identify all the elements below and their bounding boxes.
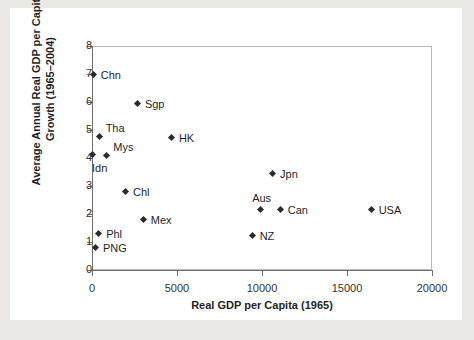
x-tick-mark bbox=[262, 271, 263, 276]
data-point-label: Sgp bbox=[145, 99, 165, 110]
x-tick-label: 10000 bbox=[232, 278, 292, 296]
x-tick-label-text: 5000 bbox=[165, 282, 189, 294]
x-tick-mark bbox=[347, 271, 348, 276]
data-point-label: Chn bbox=[101, 70, 121, 81]
y-tick-label-text: 2 bbox=[70, 208, 92, 219]
data-point-label: Can bbox=[288, 205, 308, 216]
y-tick-label-text: 3 bbox=[70, 180, 92, 191]
data-point-label: HK bbox=[179, 133, 194, 144]
y-axis-title: Average Annual Real GDP per Capita Growt… bbox=[29, 0, 59, 194]
y-tick-label-text: 1 bbox=[70, 236, 92, 247]
data-point-label: PNG bbox=[103, 243, 127, 254]
y-tick-label: 7 bbox=[58, 68, 92, 79]
x-tick-label: 15000 bbox=[317, 278, 377, 296]
data-point-label: Phl bbox=[106, 229, 122, 240]
x-tick-label: 0 bbox=[62, 278, 122, 296]
y-tick-label-text: 8 bbox=[70, 40, 92, 51]
x-tick-label: 5000 bbox=[147, 278, 207, 296]
y-tick-label: 4 bbox=[58, 152, 92, 163]
y-tick-label: 0 bbox=[58, 264, 92, 275]
y-tick-label: 5 bbox=[58, 124, 92, 135]
y-tick-label-text: 0 bbox=[70, 264, 92, 275]
data-point-label: Mex bbox=[151, 215, 172, 226]
x-tick-label-text: 20000 bbox=[417, 282, 448, 294]
data-point-label: Chl bbox=[133, 187, 150, 198]
y-tick-label: 1 bbox=[58, 236, 92, 247]
y-tick-label: 2 bbox=[58, 208, 92, 219]
x-tick-mark bbox=[92, 271, 93, 276]
y-tick-label: 8 bbox=[58, 40, 92, 51]
y-tick-label: 3 bbox=[58, 180, 92, 191]
x-tick-mark bbox=[432, 271, 433, 276]
data-point-label: USA bbox=[379, 205, 402, 216]
x-tick-mark bbox=[177, 271, 178, 276]
x-tick-label-text: 10000 bbox=[247, 282, 278, 294]
data-point-label: Jpn bbox=[280, 169, 298, 180]
scatter-chart: 012345678 05000100001500020000 ChnSgpTha… bbox=[10, 8, 462, 320]
data-point-label: NZ bbox=[260, 231, 275, 242]
data-point-label: Tha bbox=[106, 123, 125, 134]
data-point-label: Mys bbox=[113, 142, 133, 153]
figure-card: 012345678 05000100001500020000 ChnSgpTha… bbox=[10, 8, 462, 320]
x-tick-label-text: 0 bbox=[89, 282, 95, 294]
y-tick-label-text: 5 bbox=[70, 124, 92, 135]
y-axis-line bbox=[92, 46, 93, 271]
x-tick-label: 20000 bbox=[402, 278, 462, 296]
y-tick-label: 6 bbox=[58, 96, 92, 107]
x-axis-title: Real GDP per Capita (1965) bbox=[92, 299, 432, 311]
data-point-label: Idn bbox=[92, 163, 107, 174]
data-point-label: Aus bbox=[252, 193, 271, 204]
y-tick-label-text: 7 bbox=[70, 68, 92, 79]
y-tick-label-text: 6 bbox=[70, 96, 92, 107]
x-tick-label-text: 15000 bbox=[332, 282, 363, 294]
